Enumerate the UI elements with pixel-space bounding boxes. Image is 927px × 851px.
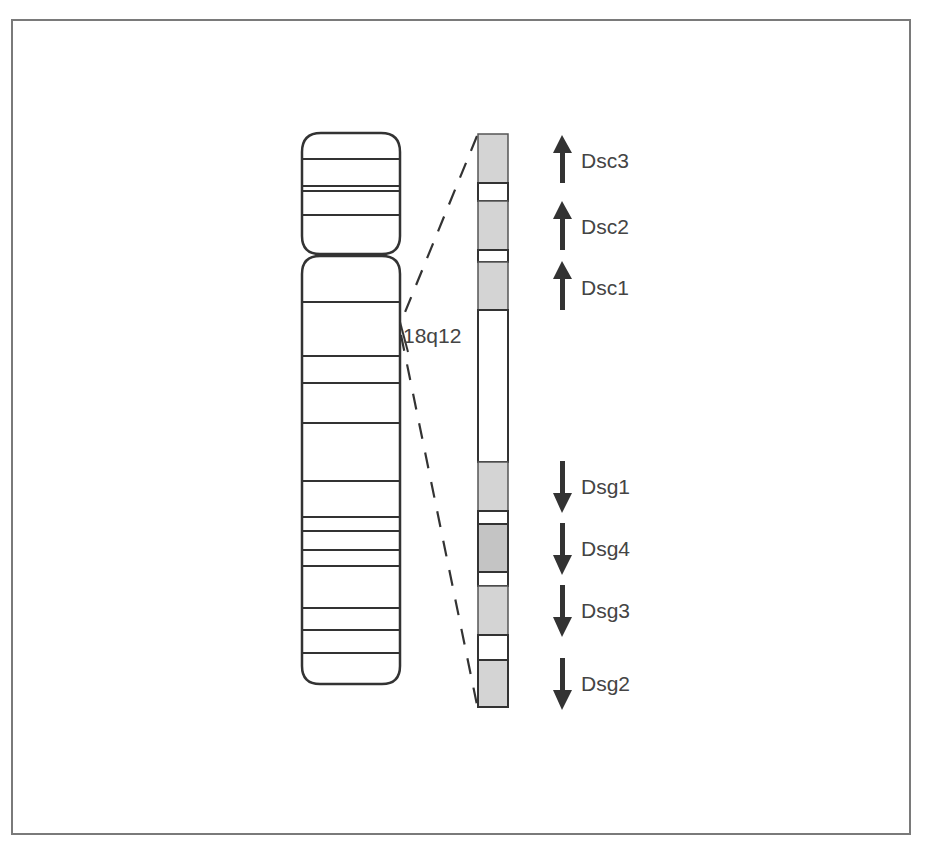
- arrow-up-icon: [553, 135, 572, 183]
- chromosome-q-arm: [302, 256, 400, 684]
- gene-block-dsc2: [478, 201, 508, 250]
- zoom-lines: [401, 136, 477, 705]
- region-label: 18q12: [403, 324, 461, 347]
- arrow-up-icon: [553, 261, 572, 310]
- gene-block-dsg4: [478, 524, 508, 572]
- gene-label-dsg4: Dsg4: [581, 537, 630, 560]
- arrow-up-icon: [553, 201, 572, 250]
- gene-label-dsg2: Dsg2: [581, 672, 630, 695]
- gene-label-dsc3: Dsc3: [581, 149, 629, 172]
- arrow-down-icon: [553, 523, 572, 575]
- gene-label-dsc2: Dsc2: [581, 215, 629, 238]
- expanded-region-bar: [478, 134, 508, 707]
- gene-block-dsg1: [478, 462, 508, 511]
- arrow-down-icon: [553, 658, 572, 710]
- gene-label-dsg1: Dsg1: [581, 475, 630, 498]
- gene-block-dsc1: [478, 262, 508, 310]
- chromosome-diagram: 18q12 Dsc3 Dsc2 Dsc1 Dsg1 Dsg4 Dsg3 Dsg2: [0, 0, 927, 851]
- gene-label-dsg3: Dsg3: [581, 599, 630, 622]
- gene-label-dsc1: Dsc1: [581, 276, 629, 299]
- gene-block-dsc3: [478, 134, 508, 183]
- chromosome-p-arm: [302, 133, 400, 254]
- gene-block-dsg3: [478, 586, 508, 635]
- gene-block-dsg2: [478, 660, 508, 707]
- arrow-down-icon: [553, 585, 572, 637]
- arrow-down-icon: [553, 461, 572, 513]
